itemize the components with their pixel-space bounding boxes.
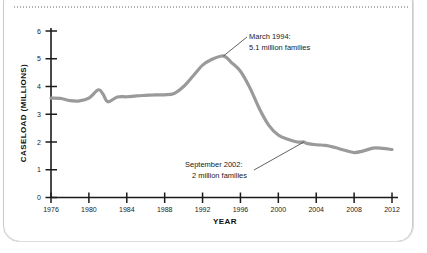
x-axis-tick-labels: 1976198019841988199219962000200420082012 [43, 206, 400, 213]
x-tick-label: 2008 [346, 206, 362, 213]
y-tick-label: 1 [37, 166, 41, 173]
trough-leader-line [254, 142, 304, 170]
x-axis-title: YEAR [213, 217, 237, 226]
x-tick-label: 1976 [43, 206, 59, 213]
y-tick-label: 6 [37, 28, 41, 35]
y-tick-label: 0 [37, 194, 41, 201]
peak-leader-line [223, 37, 247, 56]
x-tick-label: 1996 [233, 206, 249, 213]
x-tick-label: 2000 [271, 206, 287, 213]
trough-annotation-line1: September 2002: [185, 160, 243, 169]
x-tick-label: 1988 [157, 206, 173, 213]
peak-annotation-line1: March 1994: [249, 32, 291, 41]
peak-annotation-line2: 5.1 million families [249, 43, 311, 52]
y-tick-label: 4 [37, 83, 41, 90]
x-tick-label: 2004 [308, 206, 324, 213]
x-tick-label: 1992 [195, 206, 211, 213]
y-tick-label: 2 [37, 139, 41, 146]
y-axis-tick-labels: 0123456 [37, 28, 41, 202]
caseload-line-series [51, 56, 392, 153]
y-axis-title: CASELOAD (MILLIONS) [19, 64, 28, 162]
line-chart: 0123456 19761980198419881992199620002004… [0, 0, 427, 253]
trough-annotation-line2: 2 million families [192, 171, 247, 180]
y-tick-label: 3 [37, 111, 41, 118]
x-tick-label: 1984 [119, 206, 135, 213]
x-tick-label: 2012 [384, 206, 400, 213]
chart-figure: 0123456 19761980198419881992199620002004… [0, 0, 427, 253]
x-tick-label: 1980 [81, 206, 97, 213]
y-tick-label: 5 [37, 55, 41, 62]
